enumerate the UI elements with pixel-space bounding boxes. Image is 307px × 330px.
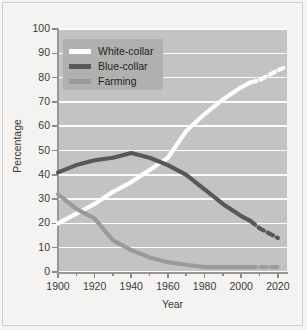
y-tick-label: 100 bbox=[20, 23, 50, 33]
x-tick-minor bbox=[149, 273, 151, 276]
y-tick-label: 0 bbox=[20, 266, 50, 276]
x-tick-minor bbox=[112, 273, 114, 276]
x-tick-label: 2020 bbox=[258, 280, 298, 292]
legend-swatch-icon bbox=[69, 79, 91, 84]
x-tick bbox=[167, 273, 169, 278]
x-tick bbox=[130, 273, 132, 278]
x-tick-label: 1920 bbox=[75, 280, 115, 292]
y-tick-label: 70 bbox=[20, 96, 50, 106]
x-tick bbox=[204, 273, 206, 278]
y-tick-label: 30 bbox=[20, 193, 50, 203]
x-tick-label: 1980 bbox=[185, 280, 225, 292]
y-tick bbox=[52, 150, 57, 152]
y-tick bbox=[52, 174, 57, 176]
chart-figure: 0102030405060708090100 19001920194019601… bbox=[0, 0, 307, 330]
gridline bbox=[58, 247, 287, 249]
x-tick-label: 1900 bbox=[38, 280, 78, 292]
legend-swatch-icon bbox=[69, 49, 91, 54]
legend-item: Blue-collar bbox=[69, 59, 148, 73]
y-tick bbox=[52, 28, 57, 30]
x-tick bbox=[240, 273, 242, 278]
gridline bbox=[58, 174, 287, 176]
legend-label: White-collar bbox=[98, 46, 153, 57]
gridline bbox=[58, 28, 287, 30]
legend-swatch-icon bbox=[69, 64, 91, 69]
y-tick bbox=[52, 198, 57, 200]
x-tick-minor bbox=[259, 273, 261, 276]
legend-item: Farming bbox=[69, 74, 137, 88]
gridline bbox=[58, 150, 287, 152]
x-tick-minor bbox=[185, 273, 187, 276]
y-tick bbox=[52, 125, 57, 127]
y-tick-label: 90 bbox=[20, 47, 50, 57]
gridline bbox=[58, 101, 287, 103]
x-tick-label: 1960 bbox=[148, 280, 188, 292]
y-axis-line bbox=[57, 28, 59, 273]
y-tick bbox=[52, 101, 57, 103]
x-tick bbox=[94, 273, 96, 278]
x-tick-label: 2000 bbox=[221, 280, 261, 292]
x-axis-title: Year bbox=[58, 298, 287, 310]
y-tick-label: 80 bbox=[20, 72, 50, 82]
y-tick-label: 20 bbox=[20, 217, 50, 227]
legend-item: White-collar bbox=[69, 44, 153, 58]
y-tick bbox=[52, 77, 57, 79]
y-tick bbox=[52, 223, 57, 225]
x-tick bbox=[57, 273, 59, 278]
y-tick-label: 40 bbox=[20, 169, 50, 179]
y-tick-label: 10 bbox=[20, 242, 50, 252]
gridline bbox=[58, 198, 287, 200]
y-axis-title: Percentage bbox=[11, 101, 23, 191]
y-tick-label: 60 bbox=[20, 120, 50, 130]
legend-label: Farming bbox=[98, 76, 137, 87]
gridline bbox=[58, 125, 287, 127]
x-tick-minor bbox=[76, 273, 78, 276]
chart-legend: White-collarBlue-collarFarming bbox=[63, 39, 163, 90]
gridline bbox=[58, 223, 287, 225]
x-tick-minor bbox=[222, 273, 224, 276]
y-tick bbox=[52, 247, 57, 249]
y-tick-label: 50 bbox=[20, 145, 50, 155]
legend-label: Blue-collar bbox=[98, 61, 148, 72]
x-tick-label: 1940 bbox=[111, 280, 151, 292]
y-tick bbox=[52, 53, 57, 55]
x-axis-line bbox=[57, 272, 288, 274]
x-tick bbox=[277, 273, 279, 278]
